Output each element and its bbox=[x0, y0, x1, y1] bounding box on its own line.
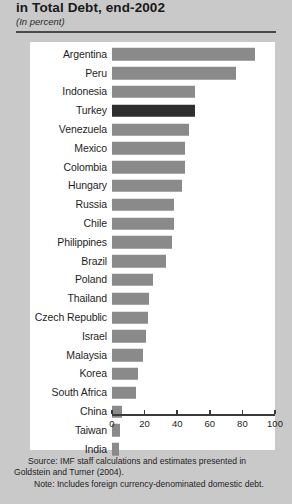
bar-track bbox=[112, 365, 275, 384]
bar-south-africa bbox=[112, 386, 136, 399]
bar-row: Hungary bbox=[30, 177, 275, 196]
bar-category-label: Venezuela bbox=[30, 124, 112, 135]
bar-category-label: Turkey bbox=[30, 105, 112, 116]
axis-line bbox=[112, 414, 275, 416]
bar-category-label: Thailand bbox=[30, 293, 112, 304]
bar-track bbox=[112, 101, 275, 120]
bar-category-label: Indonesia bbox=[30, 86, 112, 97]
bar-track bbox=[112, 177, 275, 196]
bar-track bbox=[112, 289, 275, 308]
bar-row: Israel bbox=[30, 327, 275, 346]
bar-category-label: Peru bbox=[30, 68, 112, 79]
bar-track bbox=[112, 45, 275, 64]
axis-tick-label: 60 bbox=[205, 418, 216, 429]
bar-category-label: Brazil bbox=[30, 256, 112, 267]
bar-row: Poland bbox=[30, 271, 275, 290]
bar-india bbox=[112, 443, 119, 456]
bar-track bbox=[112, 346, 275, 365]
bar-category-label: India bbox=[30, 444, 112, 455]
bar-hungary bbox=[112, 180, 182, 193]
bar-turkey bbox=[112, 105, 195, 118]
bar-row: Malaysia bbox=[30, 346, 275, 365]
bar-track bbox=[112, 308, 275, 327]
bar-argentina bbox=[112, 48, 255, 61]
bar-row: Philippines bbox=[30, 233, 275, 252]
axis-tick bbox=[176, 410, 178, 414]
source-note: Source: IMF staff calculations and estim… bbox=[14, 456, 280, 478]
bar-track bbox=[112, 139, 275, 158]
bar-peru bbox=[112, 67, 236, 80]
bar-category-label: Hungary bbox=[30, 180, 112, 191]
bar-row: Thailand bbox=[30, 289, 275, 308]
bar-poland bbox=[112, 274, 153, 287]
bar-category-label: Philippines bbox=[30, 237, 112, 248]
bar-category-label: Russia bbox=[30, 199, 112, 210]
bar-row: Korea bbox=[30, 365, 275, 384]
bar-row: Turkey bbox=[30, 101, 275, 120]
bar-malaysia bbox=[112, 349, 143, 362]
bar-row: South Africa bbox=[30, 383, 275, 402]
x-axis: 020406080100 bbox=[112, 414, 275, 438]
bar-korea bbox=[112, 368, 138, 381]
axis-tick bbox=[209, 410, 211, 414]
bar-chile bbox=[112, 217, 174, 230]
bar-rows: ArgentinaPeruIndonesiaTurkeyVenezuelaMex… bbox=[30, 45, 275, 459]
bar-category-label: Czech Republic bbox=[30, 312, 112, 323]
bar-row: Brazil bbox=[30, 252, 275, 271]
bar-row: Russia bbox=[30, 195, 275, 214]
chart-plot-area: ArgentinaPeruIndonesiaTurkeyVenezuelaMex… bbox=[30, 42, 275, 450]
bar-track bbox=[112, 327, 275, 346]
bar-row: Czech Republic bbox=[30, 308, 275, 327]
bar-category-label: China bbox=[30, 406, 112, 417]
axis-tick-label: 20 bbox=[139, 418, 150, 429]
bar-track bbox=[112, 271, 275, 290]
bar-row: Chile bbox=[30, 214, 275, 233]
bar-row: Argentina bbox=[30, 45, 275, 64]
bar-israel bbox=[112, 330, 146, 343]
bar-category-label: Mexico bbox=[30, 143, 112, 154]
bar-category-label: Colombia bbox=[30, 162, 112, 173]
bar-category-label: South Africa bbox=[30, 387, 112, 398]
bar-thailand bbox=[112, 293, 149, 306]
bar-philippines bbox=[112, 236, 172, 249]
bar-track bbox=[112, 214, 275, 233]
axis-tick bbox=[144, 410, 146, 414]
bar-czech-republic bbox=[112, 311, 148, 324]
bar-track bbox=[112, 195, 275, 214]
bar-category-label: Poland bbox=[30, 274, 112, 285]
bar-track bbox=[112, 120, 275, 139]
bar-category-label: Taiwan bbox=[30, 425, 112, 436]
bar-track bbox=[112, 233, 275, 252]
bar-category-label: Malaysia bbox=[30, 350, 112, 361]
bar-track bbox=[112, 64, 275, 83]
bar-colombia bbox=[112, 161, 185, 174]
bar-category-label: Israel bbox=[30, 331, 112, 342]
axis-tick bbox=[274, 410, 276, 414]
chart-subtitle: (In percent) bbox=[16, 16, 276, 28]
bar-venezuela bbox=[112, 123, 189, 136]
axis-tick-label: 0 bbox=[109, 418, 114, 429]
bar-track bbox=[112, 252, 275, 271]
bar-track bbox=[112, 383, 275, 402]
bar-row: Colombia bbox=[30, 158, 275, 177]
bar-category-label: Argentina bbox=[30, 49, 112, 60]
axis-tick-label: 100 bbox=[267, 418, 283, 429]
bar-row: Mexico bbox=[30, 139, 275, 158]
bar-track bbox=[112, 83, 275, 102]
bar-track bbox=[112, 158, 275, 177]
axis-tick-label: 80 bbox=[237, 418, 248, 429]
bar-row: Indonesia bbox=[30, 83, 275, 102]
bar-mexico bbox=[112, 142, 185, 155]
axis-tick bbox=[242, 410, 244, 414]
bar-row: Peru bbox=[30, 64, 275, 83]
bar-category-label: Chile bbox=[30, 218, 112, 229]
bar-indonesia bbox=[112, 86, 195, 99]
header-divider bbox=[16, 31, 276, 33]
bar-row: Venezuela bbox=[30, 120, 275, 139]
axis-tick-label: 40 bbox=[172, 418, 183, 429]
chart-footnotes: Source: IMF staff calculations and estim… bbox=[14, 456, 280, 491]
bar-russia bbox=[112, 199, 174, 212]
page-title: in Total Debt, end-2002 bbox=[16, 0, 276, 15]
chart-header: in Total Debt, end-2002 (In percent) bbox=[0, 0, 292, 33]
included-note: Note: Includes foreign currency-denomina… bbox=[14, 479, 280, 490]
